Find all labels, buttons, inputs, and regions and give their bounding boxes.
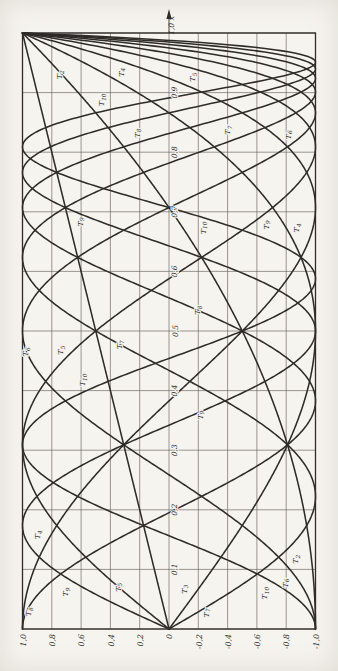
chebyshev-rotated-plot: T2T4T5T10T8T7T6T9T9T10T4T8T6T5T7T10T9T4T… — [0, 0, 338, 671]
x-tick-0,5: 0,5 — [171, 325, 180, 337]
curve-label-T_9: T9 — [61, 587, 71, 596]
curve-label-T_4: T4 — [292, 223, 302, 232]
x-tick-0,6: 0,6 — [171, 265, 180, 277]
curve-label-T_10: T10 — [79, 373, 89, 386]
y-tick-0: 0 — [165, 634, 174, 639]
curve-label-T_9: T9 — [262, 220, 272, 229]
curve-label-T_5: T5 — [188, 72, 198, 81]
x-tick-0,3: 0,3 — [171, 444, 180, 456]
y-tick-0,4: 0,4 — [107, 634, 116, 646]
curve-label-T_10: T10 — [199, 221, 209, 234]
curve-label-T_5: T5 — [57, 345, 67, 354]
curve-label-T_8: T8 — [24, 607, 34, 616]
curve-label-T_8: T8 — [133, 128, 143, 137]
curve-label-T_7: T7 — [115, 340, 125, 349]
curve-label-T_9: T9 — [196, 410, 206, 419]
curve-label-T_7: T7 — [224, 125, 234, 134]
y-tick-1,0: 1,0 — [19, 634, 28, 646]
x-tick-0,1: 0,1 — [171, 563, 180, 575]
x-tick-0,8: 0,8 — [171, 146, 180, 158]
y-tick--0,4: -0,4 — [224, 634, 233, 649]
chebyshev-figure: T2T4T5T10T8T7T6T9T9T10T4T8T6T5T7T10T9T4T… — [0, 0, 338, 671]
y-tick--1,0: -1,0 — [312, 634, 321, 649]
curve-label-T_10: T10 — [98, 93, 108, 106]
grid — [23, 33, 316, 629]
x-tick-0,4: 0,4 — [171, 384, 180, 396]
curve-label-T_6: T6 — [284, 130, 294, 139]
curve-label-T_6: T6 — [281, 578, 291, 587]
curve-labels: T2T4T5T10T8T7T6T9T9T10T4T8T6T5T7T10T9T4T… — [21, 67, 302, 617]
x-axis-max-label: 1,0 x — [167, 16, 176, 35]
y-tick--0,8: -0,8 — [282, 634, 291, 649]
x-tick-0,7: 0,7 — [171, 206, 180, 218]
curve-label-T_4: T4 — [117, 67, 127, 76]
y-tick-0,6: 0,6 — [77, 634, 86, 646]
y-tick-0,2: 0,2 — [136, 634, 145, 646]
curve-label-T_3: T3 — [180, 584, 190, 593]
y-tick-0,8: 0,8 — [48, 634, 57, 646]
curve-label-T_4: T4 — [33, 530, 43, 539]
curve-label-T_10: T10 — [260, 587, 270, 600]
x-tick-0,9: 0,9 — [171, 86, 180, 98]
curve-label-T_2: T2 — [291, 554, 301, 563]
y-tick--0,6: -0,6 — [253, 634, 262, 649]
curve-label-T_8: T8 — [193, 305, 203, 314]
curve-label-T_2: T2 — [55, 70, 65, 79]
y-tick--0,2: -0,2 — [195, 634, 204, 649]
x-tick-0,2: 0,2 — [171, 504, 180, 516]
y-tick-labels: 1,00,80,60,40,20-0,2-0,4-0,6-0,8-1,0 — [19, 634, 321, 649]
curve-label-T_9: T9 — [76, 217, 86, 226]
